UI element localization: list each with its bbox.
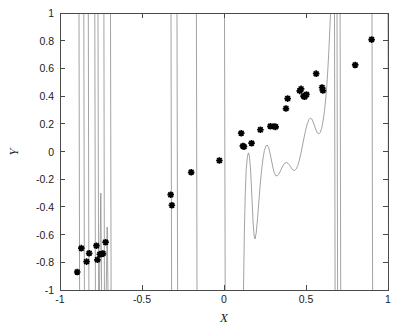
data-point-marker <box>352 62 359 69</box>
data-point-marker <box>284 95 291 102</box>
y-ticklabel-9: 0.8 <box>39 35 54 47</box>
data-point-marker <box>313 70 320 77</box>
x-ticklabel-0: -1 <box>55 293 64 305</box>
data-point-marker <box>188 169 195 176</box>
axes-frame <box>60 13 388 290</box>
y-ticklabel-3: -0.4 <box>36 201 54 213</box>
x-tick-labels: -1 -0.5 0 0.5 1 <box>55 293 391 305</box>
scatter-plot-svg: -1 -0.5 0 0.5 1 1 0.8 0.6 0.4 0.2 0 -0.2… <box>0 0 407 332</box>
y-axis-title: Y <box>6 147 21 156</box>
y-ticklabel-6: 0.2 <box>39 118 54 130</box>
x-ticklabel-4: 1 <box>385 293 391 305</box>
x-ticklabel-1: -0.5 <box>133 293 151 305</box>
data-point-marker <box>86 250 93 257</box>
data-point-marker <box>248 140 255 147</box>
interpolating-fit-curve <box>60 13 389 290</box>
data-point-marker <box>93 242 100 249</box>
y-ticklabel-0: -1 <box>45 284 54 296</box>
data-point-marker <box>241 143 248 150</box>
data-point-marker <box>78 245 85 252</box>
y-ticklabel-10: 1 <box>48 7 54 19</box>
y-ticklabel-4: -0.2 <box>36 173 54 185</box>
data-point-marker <box>74 269 81 276</box>
data-point-marker <box>298 86 305 93</box>
fit-curve-group <box>60 13 389 290</box>
data-point-marker <box>216 157 223 164</box>
data-point-marker <box>169 202 176 209</box>
data-point-marker <box>320 87 327 94</box>
y-axis-ticks <box>60 13 388 290</box>
data-point-marker <box>102 239 109 246</box>
data-point-marker <box>238 130 245 137</box>
y-ticklabel-1: -0.8 <box>36 256 54 268</box>
y-ticklabel-2: -0.6 <box>36 229 54 241</box>
data-point-marker <box>100 250 107 257</box>
data-point-marker <box>272 124 279 131</box>
data-point-marker <box>167 191 174 198</box>
y-ticklabel-8: 0.6 <box>39 62 54 74</box>
figure-canvas: -1 -0.5 0 0.5 1 1 0.8 0.6 0.4 0.2 0 -0.2… <box>0 0 407 332</box>
y-tick-labels: 1 0.8 0.6 0.4 0.2 0 -0.2 -0.4 -0.6 -0.8 … <box>36 7 54 296</box>
data-point-marker <box>303 91 310 98</box>
data-point-marker <box>257 126 264 133</box>
data-point-marker <box>83 258 90 265</box>
data-point-marker <box>283 105 290 112</box>
y-ticklabel-7: 0.4 <box>39 90 54 102</box>
x-ticklabel-3: 0.5 <box>299 293 314 305</box>
data-point-marker <box>368 36 375 43</box>
y-ticklabel-5: 0 <box>48 146 54 158</box>
x-axis-title: X <box>219 310 229 325</box>
x-ticklabel-2: 0 <box>221 293 227 305</box>
x-axis-ticks <box>60 13 388 290</box>
